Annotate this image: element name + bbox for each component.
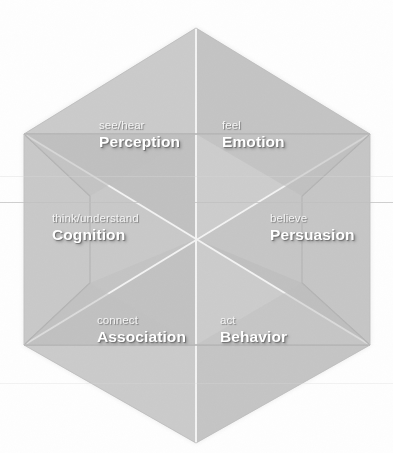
sector-sublabel-association: connect	[97, 315, 186, 327]
sector-title-cognition: Cognition	[52, 227, 139, 243]
sector-title-persuasion: Persuasion	[270, 227, 355, 243]
sector-label-association: connect Association	[97, 315, 186, 344]
sector-title-emotion: Emotion	[222, 134, 285, 150]
sector-sublabel-cognition: think/understand	[52, 213, 139, 225]
sector-label-cognition: think/understand Cognition	[52, 213, 139, 242]
sector-title-association: Association	[97, 329, 186, 345]
sector-label-behavior: act Behavior	[220, 315, 287, 344]
sector-label-perception: see/hear Perception	[99, 120, 180, 149]
sector-label-emotion: feel Emotion	[222, 120, 285, 149]
sector-sublabel-perception: see/hear	[99, 120, 180, 132]
sector-sublabel-behavior: act	[220, 315, 287, 327]
diagram-canvas: see/hear Perception feel Emotion think/u…	[0, 0, 393, 453]
sector-title-perception: Perception	[99, 134, 180, 150]
sector-sublabel-persuasion: believe	[270, 213, 355, 225]
sector-title-behavior: Behavior	[220, 329, 287, 345]
sector-label-persuasion: believe Persuasion	[270, 213, 355, 242]
sector-sublabel-emotion: feel	[222, 120, 285, 132]
